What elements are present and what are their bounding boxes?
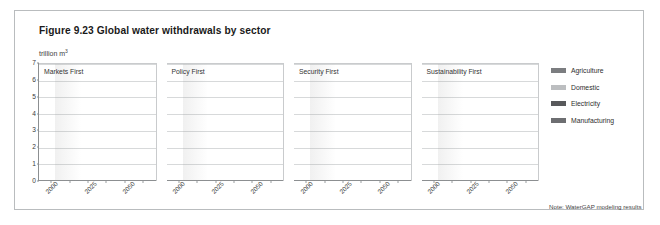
panel-markets-first: Markets First200020252050 — [39, 63, 157, 181]
bar-slot-2000[interactable] — [303, 64, 309, 181]
legend-label-domestic: Domestic — [571, 84, 599, 91]
bar-slot-2050[interactable] — [249, 64, 255, 181]
y-tick-label-6: 6 — [32, 77, 36, 84]
x-tick-label-2050: 2050 — [249, 180, 264, 195]
y-tick-label-3: 3 — [32, 127, 36, 134]
legend: AgricultureDomesticElectricityManufactur… — [551, 67, 651, 133]
y-axis-unit-label: trillion m3 — [39, 48, 68, 57]
bar-slot-2050[interactable] — [122, 64, 128, 181]
bar-group — [422, 64, 539, 181]
panel-sustainability-first: Sustainability First200020252050 — [422, 63, 540, 181]
legend-swatch-agriculture — [551, 68, 566, 73]
bar-slot-2000[interactable] — [431, 64, 437, 181]
bar-slot-2025[interactable] — [213, 64, 219, 181]
legend-label-electricity: Electricity — [571, 100, 600, 107]
legend-item-domestic[interactable]: Domestic — [551, 84, 651, 91]
legend-item-manufacturing[interactable]: Manufacturing — [551, 117, 651, 124]
y-axis-unit-exponent: 3 — [65, 48, 68, 54]
y-tick-label-0: 0 — [32, 178, 36, 185]
legend-label-manufacturing: Manufacturing — [571, 117, 614, 124]
chart-note: Note: WaterGAP modeling results — [549, 203, 642, 210]
bar-slot-2060[interactable] — [523, 64, 529, 181]
bar-slot-2060[interactable] — [140, 64, 146, 181]
bar-slot-2025[interactable] — [340, 64, 346, 181]
panel-security-first: Security First200020252050 — [294, 63, 412, 181]
x-tick-label-2025: 2025 — [210, 180, 225, 195]
y-tick-label-4: 4 — [32, 110, 36, 117]
legend-item-agriculture[interactable]: Agriculture — [551, 67, 651, 74]
legend-swatch-domestic — [551, 85, 566, 90]
bar-group — [167, 64, 284, 181]
x-axis-labels: 200020252050 — [167, 181, 284, 211]
x-tick-label-2025: 2025 — [465, 180, 480, 195]
x-tick-label-2025: 2025 — [83, 180, 98, 195]
legend-item-electricity[interactable]: Electricity — [551, 100, 651, 107]
x-tick-label-2000: 2000 — [44, 180, 59, 195]
legend-swatch-manufacturing — [551, 118, 566, 123]
bar-slot-2035[interactable] — [103, 64, 109, 181]
figure-title: Figure 9.23 Global water withdrawals by … — [39, 25, 271, 36]
panel-title: Markets First — [44, 68, 83, 75]
panel-inner: Policy First — [167, 64, 284, 181]
panel-group: Markets First200020252050Policy First200… — [39, 63, 539, 181]
x-tick-label-2050: 2050 — [376, 180, 391, 195]
bar-group — [294, 64, 411, 181]
panel-title: Sustainability First — [427, 68, 482, 75]
x-tick-label-2025: 2025 — [338, 180, 353, 195]
panel-title: Security First — [299, 68, 339, 75]
bar-slot-2000[interactable] — [48, 64, 54, 181]
bar-slot-2050[interactable] — [504, 64, 510, 181]
legend-rows: AgricultureDomesticElectricityManufactur… — [551, 67, 651, 124]
bar-slot-2010[interactable] — [194, 64, 200, 181]
bar-slot-2010[interactable] — [322, 64, 328, 181]
panel-inner: Security First — [294, 64, 411, 181]
y-axis-unit-text: trillion m — [39, 50, 65, 57]
bar-slot-2035[interactable] — [358, 64, 364, 181]
panel-inner: Sustainability First — [422, 64, 539, 181]
x-tick-label-2050: 2050 — [504, 180, 519, 195]
bar-slot-2060[interactable] — [268, 64, 274, 181]
bar-slot-2060[interactable] — [395, 64, 401, 181]
bar-slot-2050[interactable] — [377, 64, 383, 181]
legend-label-agriculture: Agriculture — [571, 67, 604, 74]
y-tick-label-2: 2 — [32, 144, 36, 151]
x-axis-labels: 200020252050 — [294, 181, 411, 211]
panel-title: Policy First — [172, 68, 205, 75]
bar-slot-2010[interactable] — [67, 64, 73, 181]
x-tick-label-2000: 2000 — [299, 180, 314, 195]
bar-slot-2000[interactable] — [176, 64, 182, 181]
x-tick-label-2000: 2000 — [171, 180, 186, 195]
bar-slot-2035[interactable] — [486, 64, 492, 181]
bar-slot-2025[interactable] — [468, 64, 474, 181]
plot-area: 01234567 Markets First200020252050Policy… — [39, 63, 539, 181]
y-tick-label-5: 5 — [32, 93, 36, 100]
x-tick-label-2050: 2050 — [121, 180, 136, 195]
bar-slot-2010[interactable] — [449, 64, 455, 181]
figure-frame: Figure 9.23 Global water withdrawals by … — [14, 10, 644, 210]
y-tick-label-7: 7 — [32, 60, 36, 67]
x-axis-labels: 200020252050 — [39, 181, 156, 211]
x-axis-labels: 200020252050 — [422, 181, 539, 211]
legend-swatch-electricity — [551, 101, 566, 106]
bar-slot-2035[interactable] — [231, 64, 237, 181]
bar-group — [39, 64, 156, 181]
panel-policy-first: Policy First200020252050 — [167, 63, 285, 181]
x-tick-label-2000: 2000 — [426, 180, 441, 195]
bar-slot-2025[interactable] — [85, 64, 91, 181]
panel-inner: Markets First — [39, 64, 156, 181]
y-tick-label-1: 1 — [32, 161, 36, 168]
